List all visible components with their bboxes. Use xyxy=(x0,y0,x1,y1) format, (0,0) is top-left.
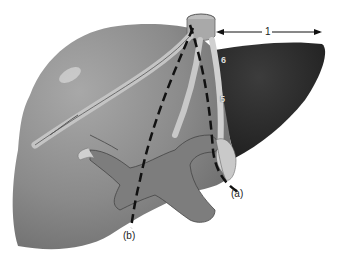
liver-illustration xyxy=(0,0,339,256)
label-segment-5: 5 xyxy=(220,95,225,104)
label-line-a: (a) xyxy=(231,189,243,199)
label-segment-6: 6 xyxy=(221,56,226,65)
label-arrow-1: 1 xyxy=(265,27,271,37)
left-lobe xyxy=(215,42,325,158)
liver-diagram: 1 6 5 (a) (b) xyxy=(0,0,339,256)
label-line-b: (b) xyxy=(123,231,135,241)
